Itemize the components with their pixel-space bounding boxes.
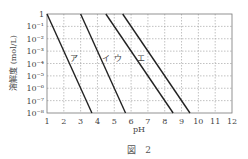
y-tick-label: 10⁻⁴ xyxy=(26,60,44,69)
series-label: イ xyxy=(102,54,110,63)
solubility-chart: 123456789101112 110⁻¹10⁻²10⁻³10⁻⁴10⁻⁵10⁻… xyxy=(0,0,248,159)
series-label: ウ xyxy=(114,54,122,63)
series-line xyxy=(106,14,173,113)
x-tick-label: 2 xyxy=(61,117,66,126)
figure-caption: 図 2 xyxy=(127,145,151,155)
y-axis-ticks: 110⁻¹10⁻²10⁻³10⁻⁴10⁻⁵10⁻⁶10⁻⁷10⁻⁸ xyxy=(26,10,44,118)
x-tick-label: 7 xyxy=(145,117,150,126)
y-tick-label: 10⁻¹ xyxy=(26,22,44,31)
x-tick-label: 3 xyxy=(78,117,83,126)
series-label: ア xyxy=(70,54,78,63)
y-tick-label: 10⁻⁶ xyxy=(26,84,44,93)
x-tick-label: 1 xyxy=(44,117,49,126)
x-tick-label: 10 xyxy=(193,117,203,126)
y-tick-label: 10⁻⁵ xyxy=(26,72,44,81)
x-tick-label: 8 xyxy=(162,117,167,126)
y-tick-label: 10⁻⁷ xyxy=(26,97,44,106)
y-tick-label: 10⁻² xyxy=(26,35,44,44)
x-tick-label: 4 xyxy=(95,117,100,126)
x-tick-label: 12 xyxy=(227,117,237,126)
y-axis-label: 溶解度 (mol/L) xyxy=(8,35,18,91)
x-tick-label: 9 xyxy=(179,117,184,126)
x-tick-label: 5 xyxy=(112,117,117,126)
x-tick-label: 11 xyxy=(210,117,220,126)
y-tick-label: 10⁻⁸ xyxy=(26,109,44,118)
y-tick-label: 1 xyxy=(39,10,44,19)
y-tick-label: 10⁻³ xyxy=(26,47,44,56)
series-label: エ xyxy=(137,54,145,63)
x-axis-label: pH xyxy=(133,125,145,134)
